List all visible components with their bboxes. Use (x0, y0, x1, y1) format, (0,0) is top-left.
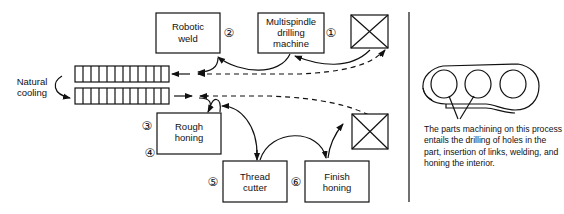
step-number-4: ④ (145, 146, 156, 160)
drilling-label-1: Multispindle (266, 16, 316, 27)
finish-honing-label-1: Finish (324, 171, 349, 182)
machine-robotic-weld: Robotic weld (156, 13, 220, 53)
process-caption: The parts machining on this process enta… (424, 124, 564, 169)
conveyor-bottom (75, 88, 169, 104)
drilling-label-3: machine (273, 38, 309, 49)
cooling-arrow-icon (55, 76, 70, 98)
process-flow-diagram: Robotic weld ② Multispindle drilling mac… (0, 0, 564, 214)
drilling-label-2: drilling (277, 27, 304, 38)
loop-arrow (210, 99, 220, 112)
step-number-6: ⑥ (291, 175, 302, 189)
robotic-weld-label-2: weld (177, 33, 198, 44)
arrow-thread-to-rough (222, 106, 257, 157)
machine-rough-honing: Rough honing (157, 113, 221, 154)
rough-honing-label-1: Rough (175, 121, 203, 132)
dashed-top-arrowhead (380, 50, 385, 56)
thread-cutter-label-2: cutter (243, 182, 267, 193)
rough-honing-label-2: honing (175, 132, 204, 143)
machine-thread-cutter: Thread cutter (223, 161, 287, 202)
conveyor-top (75, 66, 169, 82)
machine-finish-honing: Finish honing (305, 161, 369, 202)
finish-honing-label-2: honing (323, 182, 352, 193)
step-number-2: ② (224, 26, 235, 40)
step-number-3: ③ (142, 119, 153, 133)
arrow-thread-to-finish (260, 136, 326, 160)
natural-cooling-label-2: cooling (17, 87, 47, 98)
arrow-drilling-to-weld (218, 54, 290, 70)
robotic-weld-label-1: Robotic (172, 21, 204, 32)
arrow-to-rough-honing (199, 98, 210, 112)
machine-multispindle-drilling: Multispindle drilling machine (258, 13, 324, 53)
crossed-box-icon (351, 15, 388, 48)
step-number-1: ① (326, 26, 337, 40)
arrow-weld-to-conveyor (198, 58, 218, 72)
thread-cutter-label-1: Thread (240, 171, 270, 182)
part-illustration (423, 64, 539, 119)
step-number-5: ⑤ (208, 175, 219, 189)
arrow-finish-to-box (328, 124, 343, 158)
natural-cooling-label-1: Natural (17, 76, 48, 87)
crossed-box-icon (352, 114, 388, 149)
